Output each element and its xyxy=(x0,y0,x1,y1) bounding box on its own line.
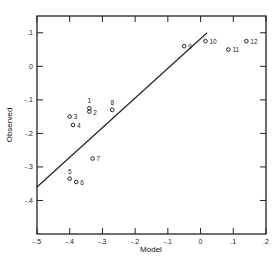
data-point xyxy=(227,48,231,52)
point-label: 2 xyxy=(93,109,97,116)
x-tick-label: -.5 xyxy=(33,238,41,245)
x-tick-label: -.1 xyxy=(164,238,172,245)
fit-line xyxy=(37,33,207,187)
x-tick-label: -.2 xyxy=(131,238,139,245)
x-tick-label: -.3 xyxy=(98,238,106,245)
y-tick-label: .1 xyxy=(27,29,33,36)
data-point xyxy=(245,39,249,43)
point-label: 8 xyxy=(110,99,114,106)
point-label: 6 xyxy=(80,179,84,186)
point-label: 11 xyxy=(232,46,239,53)
point-label: 10 xyxy=(209,38,217,45)
y-tick-label: -.1 xyxy=(25,96,33,103)
data-point xyxy=(91,157,95,161)
data-point xyxy=(182,44,186,48)
data-point xyxy=(68,115,72,119)
point-label: 3 xyxy=(74,113,78,120)
point-label: 1 xyxy=(88,97,92,104)
x-tick-label: 0 xyxy=(199,238,203,245)
point-label: 12 xyxy=(250,38,258,45)
y-tick-label: -.4 xyxy=(25,197,33,204)
scatter-chart: -.5-.4-.3-.2-.10.1.2 .10-.1-.2-.3-.4 123… xyxy=(0,0,276,259)
point-label: 5 xyxy=(68,168,72,175)
y-tick-label: 0 xyxy=(29,63,33,70)
point-label: 9 xyxy=(188,43,192,50)
x-tick-label: .2 xyxy=(263,238,269,245)
x-axis-title: Model xyxy=(140,245,162,254)
y-axis: .10-.1-.2-.3-.4 xyxy=(25,29,266,204)
data-point xyxy=(110,108,114,112)
data-point xyxy=(71,123,75,127)
data-point xyxy=(204,39,208,43)
data-point xyxy=(68,177,72,181)
data-points: 123456789101112 xyxy=(68,38,258,186)
y-tick-label: -.2 xyxy=(25,130,33,137)
x-tick-label: .1 xyxy=(230,238,236,245)
y-axis-title: Observed xyxy=(5,108,14,143)
point-label: 4 xyxy=(77,122,81,129)
point-label: 7 xyxy=(97,155,101,162)
y-tick-label: -.3 xyxy=(25,163,33,170)
data-point xyxy=(74,180,78,184)
x-tick-label: -.4 xyxy=(66,238,74,245)
regression-line xyxy=(37,33,207,187)
